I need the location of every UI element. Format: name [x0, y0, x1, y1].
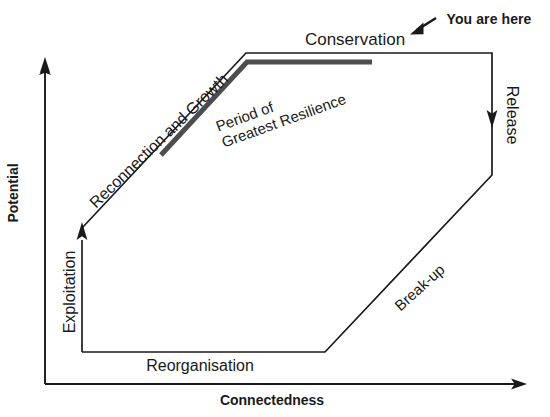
phase-label-reorganisation: Reorganisation — [146, 357, 254, 375]
annotation-you-are-here: You are here — [447, 12, 532, 28]
phase-label-release: Release — [503, 86, 521, 145]
y-axis-label: Potential — [6, 163, 22, 222]
phase-label-conservation: Conservation — [305, 30, 405, 49]
diagram-canvas — [0, 0, 550, 417]
x-axis-label: Connectedness — [220, 393, 324, 409]
phase-label-exploitation: Exploitation — [61, 251, 79, 334]
you-are-here-arrow — [410, 18, 436, 35]
adaptive-cycle-figure: Potential Connectedness Exploitation Reo… — [0, 0, 550, 417]
